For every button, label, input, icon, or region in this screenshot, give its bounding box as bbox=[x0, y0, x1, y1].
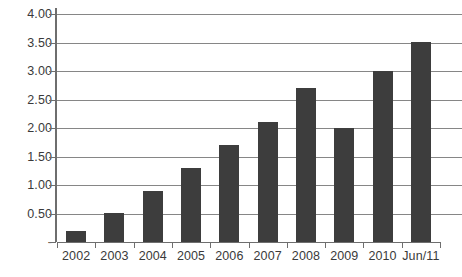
x-tick-label: 2003 bbox=[100, 250, 128, 263]
y-axis-tick bbox=[49, 14, 56, 15]
x-axis: 200220032004200520062007200820092010Jun/… bbox=[57, 250, 440, 272]
bar bbox=[258, 122, 278, 242]
x-axis-tick bbox=[363, 242, 364, 248]
bar bbox=[104, 213, 124, 242]
y-tick-label: 1.00 bbox=[0, 179, 52, 192]
y-axis-tick bbox=[49, 100, 56, 101]
y-tick-label: 2.50 bbox=[0, 93, 52, 106]
y-tick-label: 3.00 bbox=[0, 65, 52, 78]
bar bbox=[334, 128, 354, 242]
x-tick-label: 2006 bbox=[215, 250, 243, 263]
bar bbox=[143, 191, 163, 242]
gridline-extension bbox=[440, 71, 462, 72]
x-axis-tick bbox=[210, 242, 211, 248]
x-axis-tick bbox=[325, 242, 326, 248]
y-tick-label: 1.50 bbox=[0, 150, 52, 163]
x-axis-tick bbox=[57, 242, 58, 248]
gridline-extension bbox=[440, 157, 462, 158]
gridline-extension bbox=[440, 43, 462, 44]
bar bbox=[411, 42, 431, 242]
bar bbox=[296, 88, 316, 242]
gridline bbox=[57, 43, 440, 44]
y-tick-label: 2.00 bbox=[0, 122, 52, 135]
x-tick-label: 2008 bbox=[292, 250, 320, 263]
gridline-extension bbox=[440, 14, 462, 15]
bar bbox=[219, 145, 239, 242]
x-axis-tick bbox=[134, 242, 135, 248]
x-tick-label: 2005 bbox=[177, 250, 205, 263]
x-axis-tick bbox=[95, 242, 96, 248]
gridline-extension bbox=[440, 128, 462, 129]
gridline-extension bbox=[440, 214, 462, 215]
gridline-extension bbox=[440, 100, 462, 101]
x-tick-label: 2007 bbox=[254, 250, 282, 263]
x-tick-label: 2010 bbox=[368, 250, 396, 263]
y-tick-label: 4.00 bbox=[0, 8, 52, 21]
x-axis-tick bbox=[249, 242, 250, 248]
x-axis-tick bbox=[402, 242, 403, 248]
x-tick-label: 2004 bbox=[139, 250, 167, 263]
x-axis-tick bbox=[172, 242, 173, 248]
bar bbox=[373, 71, 393, 242]
x-tick-label: Jun/11 bbox=[402, 250, 439, 263]
y-axis: -0.501.001.502.002.503.003.504.00 bbox=[0, 0, 52, 277]
x-tick-label: 2009 bbox=[330, 250, 358, 263]
plot-area bbox=[57, 14, 440, 242]
bar-chart: -0.501.001.502.002.503.003.504.00 200220… bbox=[0, 0, 462, 277]
y-axis-tick bbox=[49, 71, 56, 72]
x-tick-label: 2002 bbox=[62, 250, 90, 263]
y-axis-tick bbox=[49, 185, 56, 186]
x-axis-tick bbox=[287, 242, 288, 248]
y-axis-tick bbox=[49, 242, 56, 243]
bar bbox=[181, 168, 201, 242]
y-axis-tick bbox=[49, 157, 56, 158]
y-axis-tick bbox=[49, 214, 56, 215]
y-tick-label: - bbox=[0, 236, 52, 249]
bar bbox=[66, 231, 86, 242]
gridline bbox=[57, 14, 440, 15]
gridline-extension bbox=[440, 185, 462, 186]
y-tick-label: 3.50 bbox=[0, 36, 52, 49]
y-tick-label: 0.50 bbox=[0, 207, 52, 220]
y-axis-tick bbox=[49, 128, 56, 129]
x-axis-tick bbox=[440, 242, 441, 248]
y-axis-tick bbox=[49, 43, 56, 44]
